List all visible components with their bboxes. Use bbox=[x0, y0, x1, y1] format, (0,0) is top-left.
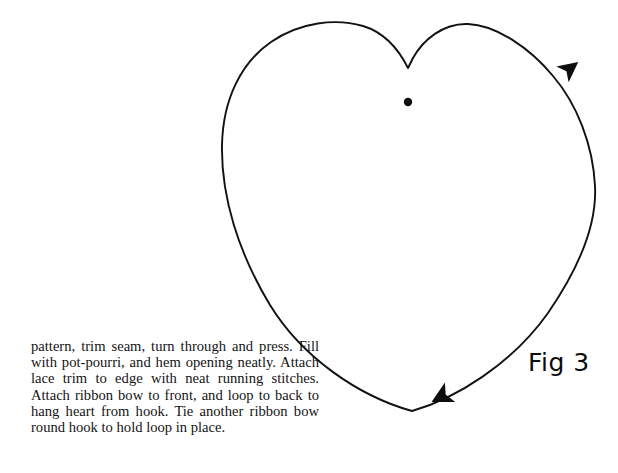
upper-right-direction-arrow-icon bbox=[556, 54, 584, 82]
scanned-page: Fig 3 pattern, trim seam, turn through a… bbox=[0, 0, 618, 473]
instructions-paragraph: pattern, trim seam, turn through and pre… bbox=[31, 338, 319, 435]
figure-caption: Fig 3 bbox=[528, 350, 590, 375]
lower-left-direction-arrow-icon bbox=[426, 383, 455, 412]
pattern-instructions-text: pattern, trim seam, turn through and pre… bbox=[31, 338, 319, 435]
centre-dot-icon bbox=[404, 98, 412, 106]
